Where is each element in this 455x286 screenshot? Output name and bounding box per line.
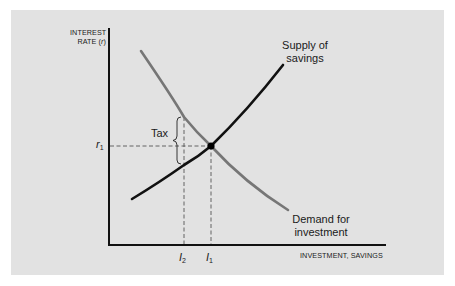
tax-brace-icon [173, 117, 181, 164]
demand-curve-label: Demand for investment [286, 213, 356, 238]
i1-tick-label: I1 [206, 251, 213, 264]
supply-demand-diagram [0, 0, 455, 286]
tax-label: Tax [151, 127, 168, 139]
i2-tick-label: I2 [179, 251, 186, 264]
y-axis-label: INTEREST RATE (r) [70, 28, 106, 46]
supply-curve-label: Supply of savings [268, 39, 342, 64]
equilibrium-point [207, 142, 214, 149]
r1-tick-label: r1 [96, 138, 104, 151]
y-axis-label-line1: INTEREST [70, 28, 106, 37]
y-axis-label-line2: RATE (r) [70, 37, 106, 46]
x-axis-label: INVESTMENT, SAVINGS [300, 251, 383, 260]
